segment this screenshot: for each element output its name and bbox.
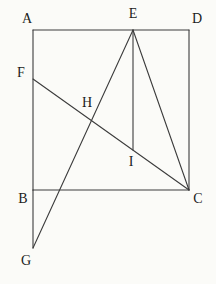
segment-EC [133,30,189,190]
segment-FC [33,79,189,190]
point-label-E: E [129,6,138,21]
point-label-I: I [129,154,134,169]
point-label-D: D [192,11,202,26]
point-label-G: G [21,253,31,268]
point-label-B: B [18,191,27,206]
point-label-H: H [82,95,92,110]
point-label-C: C [193,191,202,206]
geometry-diagram: AEDFHIBCG [0,0,216,284]
point-label-F: F [17,65,25,80]
figure-container: AEDFHIBCG [0,0,216,284]
point-label-A: A [22,11,33,26]
